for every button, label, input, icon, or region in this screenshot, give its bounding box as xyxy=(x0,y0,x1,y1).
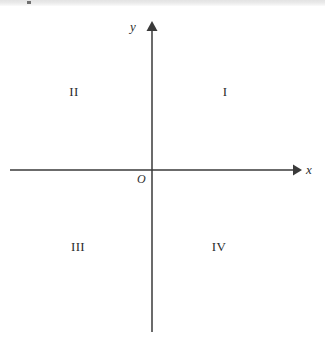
quadrant-label-ii: II xyxy=(69,85,78,98)
x-axis-arrowhead xyxy=(293,165,302,176)
quadrant-label-iii: III xyxy=(71,240,85,253)
quadrant-label-i: I xyxy=(223,85,228,98)
y-axis-arrowhead xyxy=(147,21,158,31)
y-axis-label: y xyxy=(130,20,136,33)
axes-drawing xyxy=(0,0,325,345)
x-axis-label: x xyxy=(306,163,312,176)
coordinate-plane-figure: y x O I II III IV xyxy=(0,0,325,345)
quadrant-label-iv: IV xyxy=(212,240,226,253)
origin-label: O xyxy=(137,173,146,185)
